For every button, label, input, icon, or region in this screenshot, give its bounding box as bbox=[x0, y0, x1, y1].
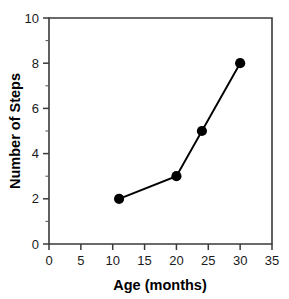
y-tick-label: 2 bbox=[32, 191, 39, 206]
data-series-layer bbox=[114, 58, 245, 204]
line-chart: 0246810 05101520253035 Age (months) Numb… bbox=[0, 0, 289, 299]
x-tick-label: 5 bbox=[77, 253, 84, 268]
data-point-marker bbox=[235, 58, 245, 68]
x-axis-ticks bbox=[49, 244, 272, 250]
y-axis-ticks bbox=[43, 18, 49, 244]
x-tick-label: 15 bbox=[137, 253, 151, 268]
x-tick-label: 10 bbox=[105, 253, 119, 268]
data-point-marker bbox=[114, 194, 124, 204]
plot-border bbox=[49, 18, 272, 244]
y-tick-label: 10 bbox=[25, 11, 39, 26]
x-tick-label: 20 bbox=[169, 253, 183, 268]
x-tick-label: 35 bbox=[265, 253, 279, 268]
data-point-marker bbox=[171, 171, 181, 181]
y-tick-label: 4 bbox=[32, 146, 39, 161]
y-tick-label: 6 bbox=[32, 101, 39, 116]
y-axis-tick-labels: 0246810 bbox=[25, 11, 39, 252]
plot-frame bbox=[49, 18, 272, 244]
x-tick-label: 30 bbox=[233, 253, 247, 268]
y-axis-title: Number of Steps bbox=[7, 73, 23, 189]
x-axis-title: Age (months) bbox=[113, 277, 207, 293]
x-tick-label: 0 bbox=[45, 253, 52, 268]
x-tick-label: 25 bbox=[201, 253, 215, 268]
chart-canvas: 0246810 05101520253035 Age (months) Numb… bbox=[0, 0, 289, 299]
y-tick-label: 0 bbox=[32, 237, 39, 252]
y-tick-label: 8 bbox=[32, 56, 39, 71]
x-axis-tick-labels: 05101520253035 bbox=[45, 253, 279, 268]
data-point-marker bbox=[197, 126, 207, 136]
